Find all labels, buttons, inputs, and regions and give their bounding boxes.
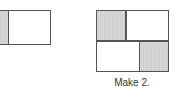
- right-square-figure: [96, 10, 169, 72]
- caption-text: Make 2.: [96, 77, 168, 88]
- bottom-row-divider: [139, 40, 141, 72]
- divider-line: [8, 10, 10, 45]
- left-rectangle-figure: [0, 10, 51, 45]
- row-divider: [96, 40, 169, 42]
- top-row-divider: [125, 10, 127, 41]
